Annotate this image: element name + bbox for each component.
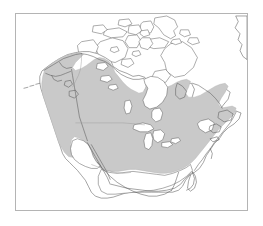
king-william-island <box>121 59 134 68</box>
north-america-range-map <box>16 14 247 210</box>
arctic-islet-b <box>132 51 141 57</box>
greenland-edge-group <box>235 16 247 60</box>
prince-of-wales-island <box>125 35 141 48</box>
greenland-edge <box>235 16 247 60</box>
figure-container <box>0 0 263 226</box>
arctic-islet-d <box>188 38 200 45</box>
bathurst-island <box>128 25 142 35</box>
range-polygon-main <box>42 53 236 174</box>
arctic-islet-c <box>180 30 191 37</box>
ellesmere-island <box>154 16 178 39</box>
map-frame <box>15 13 248 211</box>
cornwallis-island <box>140 30 150 37</box>
aleutian-chain <box>24 83 40 88</box>
chesapeake-bay <box>210 149 212 159</box>
